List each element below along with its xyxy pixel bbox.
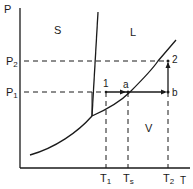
region-vapor-label: V [145,123,152,134]
point-a-label: a [123,80,129,90]
ts-label: Ts [123,173,134,186]
point-2-marker [167,60,170,63]
point-1-label: 1 [103,79,109,89]
vapor-curve [30,40,176,155]
arrow-to-b-icon [161,90,167,95]
point-a-marker [127,91,130,94]
t1-label: T1 [100,173,111,186]
region-solid-label: S [54,25,61,36]
p2-label: P2 [6,56,18,69]
phase-diagram-canvas [0,0,193,189]
point-2-label: 2 [172,55,178,65]
point-1-marker [105,91,108,94]
region-liquid-label: L [130,27,136,38]
x-axis-label: T [180,176,186,186]
point-b-marker [167,91,170,94]
y-axis-label: P [4,4,11,15]
point-b-label: b [172,88,178,98]
p1-label: P1 [6,87,18,100]
t2-label: T2 [163,173,174,186]
arrow-to-2-icon [166,62,171,68]
solid-liquid-boundary [92,12,98,116]
arrow-to-a-icon [120,90,126,95]
